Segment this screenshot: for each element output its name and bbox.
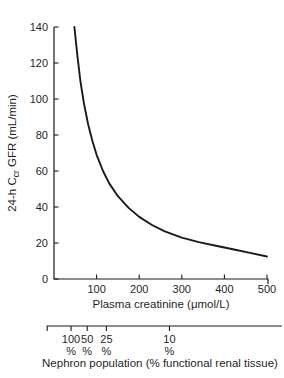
x-axis-title: Plasma creatinine (μmol/L) [92,298,229,310]
plot-spines [54,27,268,284]
y-tick-label: 80 [36,129,48,141]
nephron-axis-title: Nephron population (% functional renal t… [42,357,278,369]
y-tick-label: 140 [30,21,48,33]
x-tick-label: 100 [87,283,105,295]
nephron-tick-unit: % [82,345,92,357]
y-tick-label: 20 [36,237,48,249]
y-tick-label: 120 [30,57,48,69]
x-tick-label: 400 [215,283,233,295]
chart-canvas: 020406080100120140100200300400500 100%50… [0,0,284,378]
nephron-tick-unit: % [66,345,76,357]
nephron-tick-unit: % [102,345,112,357]
gfr-curve [74,27,267,257]
y-axis-title-suffix: GFR (mL/min) [6,94,18,170]
gfr-plasma-creatinine-figure: 020406080100120140100200300400500 100%50… [0,0,284,378]
nephron-tick-value: 10 [163,333,175,345]
axis-ticks [54,27,267,279]
nephron-tick-value: 50 [81,333,93,345]
y-tick-label: 60 [36,165,48,177]
y-tick-label: 40 [36,201,48,213]
gfr-curve-group [74,27,267,257]
x-tick-label: 500 [258,283,276,295]
y-axis-title: 24-h Ccr GFR (mL/min) [6,94,21,212]
x-tick-label: 300 [173,283,191,295]
nephron-tick-value: 25 [100,333,112,345]
nephron-axis-line [47,326,282,331]
nephron-axis: 100%50%25%10% [47,326,282,357]
y-tick-label: 0 [42,273,48,285]
nephron-tick-value: 100 [62,333,80,345]
y-axis-title-prefix: 24-h C [6,177,18,212]
axis-tick-labels: 020406080100120140100200300400500 [30,21,277,295]
x-tick-label: 200 [130,283,148,295]
y-tick-label: 100 [30,93,48,105]
axes [54,27,268,284]
nephron-tick-unit: % [165,345,175,357]
